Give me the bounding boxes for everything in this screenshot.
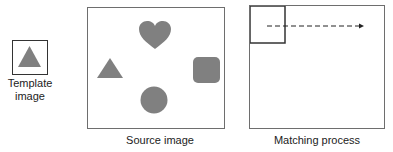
triangle-icon	[13, 41, 46, 73]
template-image-label: Template image	[0, 77, 60, 103]
sliding-window	[250, 6, 285, 43]
source-shapes	[88, 8, 224, 128]
matching-process-label: Matching process	[262, 134, 372, 147]
rounded-square-icon	[193, 57, 220, 83]
template-label-line2: image	[0, 90, 60, 103]
matching-process-frame	[249, 5, 385, 129]
arrow-head-icon	[359, 24, 364, 29]
template-label-line1: Template	[0, 77, 60, 90]
circle-icon	[141, 87, 168, 114]
template-image-frame	[12, 40, 48, 75]
heart-icon	[139, 21, 171, 49]
triangle-icon	[97, 58, 123, 78]
matching-overlay	[250, 6, 384, 128]
source-image-frame	[87, 7, 225, 129]
source-image-label: Source image	[110, 134, 210, 147]
